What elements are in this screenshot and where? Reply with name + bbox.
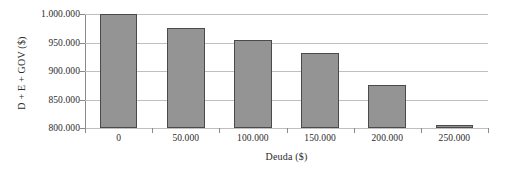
y-axis-tick-label: 900.000 [18, 66, 80, 76]
y-axis-tick-mark [79, 71, 85, 72]
x-axis-tick-label: 100.000 [237, 133, 269, 143]
gridline [85, 14, 488, 15]
bar [234, 40, 272, 128]
y-axis-tick-labels: 1.000.000950.000900.000850.000800.000 [18, 0, 80, 176]
y-axis-tick-mark [79, 43, 85, 44]
x-axis-tick-mark [152, 128, 153, 133]
x-axis-tick-label: 150.000 [304, 133, 336, 143]
x-axis-tick-label: 250.000 [439, 133, 471, 143]
x-axis-tick-mark [287, 128, 288, 133]
x-axis-tick-mark [354, 128, 355, 133]
y-axis-tick-label: 1.000.000 [18, 9, 80, 19]
x-axis-tick-labels: 050.000100.000150.000200.000250.000 [85, 133, 488, 149]
bar [167, 28, 205, 128]
x-axis-tick-mark [488, 128, 489, 133]
y-axis-tick-label: 850.000 [18, 95, 80, 105]
x-axis-tick-label: 50.000 [172, 133, 199, 143]
bar-chart: D + E + GOV ($) 1.000.000950.000900.0008… [0, 0, 508, 176]
bar [436, 125, 474, 128]
x-axis-title: Deuda ($) [85, 151, 488, 162]
x-axis-tick-label: 200.000 [371, 133, 403, 143]
gridline [85, 43, 488, 44]
x-axis-tick-mark [219, 128, 220, 133]
y-axis-tick-label: 800.000 [18, 123, 80, 133]
y-axis-tick-label: 950.000 [18, 38, 80, 48]
bar [368, 85, 406, 128]
x-axis-tick-label: 0 [116, 133, 121, 143]
x-axis-tick-mark [421, 128, 422, 133]
x-axis-tick-mark [85, 128, 86, 133]
gridline [85, 100, 488, 101]
y-axis-tick-mark [79, 100, 85, 101]
bar [301, 53, 339, 128]
gridline [85, 71, 488, 72]
y-axis-tick-mark [79, 14, 85, 15]
bar [100, 14, 138, 128]
plot-area [85, 14, 488, 128]
